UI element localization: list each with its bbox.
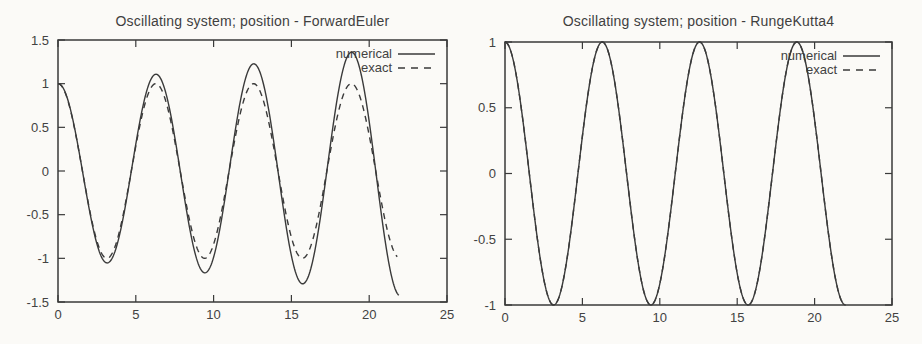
y-tick-label: 1.5: [31, 33, 49, 48]
y-tick-label: -0.5: [27, 207, 49, 222]
legend-label-exact: exact: [361, 60, 392, 75]
x-tick-label: 5: [132, 307, 139, 322]
y-tick-label: 0.5: [478, 100, 496, 115]
y-tick-label: 1: [42, 76, 49, 91]
y-tick-label: -0.5: [474, 232, 496, 247]
x-tick-label: 15: [730, 310, 744, 325]
series-exact-line: [58, 84, 397, 259]
x-tick-label: 10: [653, 310, 667, 325]
y-tick-label: 0: [42, 164, 49, 179]
x-tick-label: 0: [54, 307, 61, 322]
series-exact-line: [505, 42, 846, 305]
y-tick-label: -1: [484, 298, 496, 313]
chart-forwardeuler: 05101520251.510.50-0.5-1-1.5numericalexa…: [27, 33, 455, 322]
y-tick-label: 0.5: [31, 120, 49, 135]
legend-label-numerical: numerical: [336, 46, 392, 61]
oscillation-plots-canvas: 05101520251.510.50-0.5-1-1.5numericalexa…: [0, 0, 922, 344]
scanned-figure-page: Oscillating system; position - ForwardEu…: [0, 0, 922, 344]
plot-frame: [505, 42, 892, 305]
y-tick-label: 0: [489, 166, 496, 181]
y-tick-label: 1: [489, 35, 496, 50]
chart-rungekutta4: 051015202510.50-0.5-1numericalexact: [474, 35, 900, 325]
x-tick-label: 10: [206, 307, 220, 322]
x-tick-label: 25: [885, 310, 899, 325]
x-tick-label: 0: [501, 310, 508, 325]
x-tick-label: 20: [807, 310, 821, 325]
y-tick-label: -1.5: [27, 295, 49, 310]
x-tick-label: 25: [440, 307, 454, 322]
legend-label-exact: exact: [806, 62, 837, 77]
y-tick-label: -1: [37, 251, 49, 266]
x-tick-label: 15: [284, 307, 298, 322]
x-tick-label: 5: [579, 310, 586, 325]
x-tick-label: 20: [362, 307, 376, 322]
